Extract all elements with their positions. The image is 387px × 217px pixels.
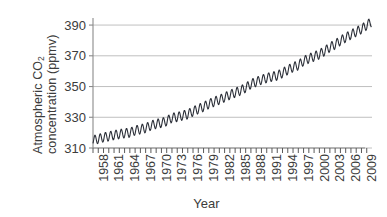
x-tick-label: 1979	[208, 154, 220, 182]
x-tick-label: 1985	[240, 154, 252, 182]
x-tick-label: 1982	[224, 154, 236, 182]
x-tick-label: 1961	[113, 154, 125, 182]
x-tick-label: 1997	[303, 154, 315, 182]
x-tick-label: 2000	[319, 154, 331, 182]
x-tick-label: 1988	[255, 154, 267, 182]
co2-concentration-chart: Atmospheric CO2 concentration (ppmv) 310…	[0, 0, 387, 217]
x-axis-title-text: Year	[193, 196, 219, 211]
x-tick-label: 1964	[129, 154, 141, 182]
x-axis-tick-labels: 1958196119641967197019731976197919821985…	[0, 0, 387, 217]
x-tick-label: 2009	[366, 154, 378, 182]
x-tick-label: 1973	[176, 154, 188, 182]
x-tick-label: 1994	[287, 154, 299, 182]
x-axis-title: Year	[0, 196, 387, 211]
x-tick-label: 1967	[145, 154, 157, 182]
x-tick-label: 2006	[350, 154, 362, 182]
x-tick-label: 1970	[161, 154, 173, 182]
x-tick-label: 2003	[334, 154, 346, 182]
x-tick-label: 1958	[98, 154, 110, 182]
x-tick-label: 1976	[192, 154, 204, 182]
x-tick-label: 1991	[271, 154, 283, 182]
